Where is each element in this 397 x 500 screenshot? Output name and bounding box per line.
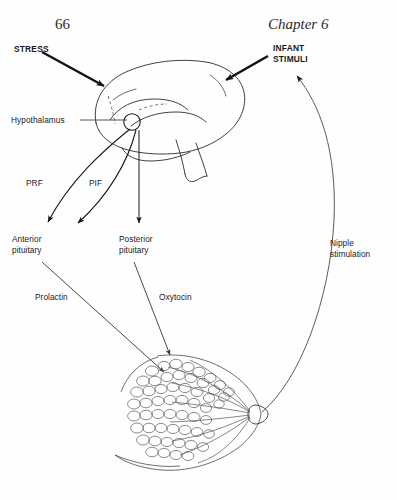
arrow-nipple-stimulation-feedback [262, 76, 334, 412]
arrow-infant-stimuli-to-brain [226, 56, 268, 80]
arrow-prf [48, 129, 130, 222]
brain-outline [95, 60, 244, 181]
label-posterior-pituitary: Posterior pituitary [119, 234, 153, 255]
arrow-stress-to-brain [42, 52, 104, 86]
hypothalamus-circle [124, 114, 140, 130]
label-hypothalamus: Hypothalamus [11, 115, 65, 126]
book-page: 66 Chapter 6 [0, 0, 397, 500]
arrow-prolactin [42, 262, 164, 372]
label-infant-stimuli: INFANT STIMULI [273, 43, 308, 64]
label-pif: PIF [89, 178, 102, 189]
label-oxytocin: Oxytocin [159, 292, 192, 303]
label-prf: PRF [26, 178, 43, 189]
label-anterior-pituitary: Anterior pituitary [12, 234, 42, 255]
label-prolactin: Prolactin [35, 292, 68, 303]
label-nipple-stimulation: Nipple stimulation [330, 238, 370, 259]
arrow-oxytocin [134, 262, 170, 355]
label-stress: STRESS [14, 44, 49, 55]
page-edge-clip [392, 0, 397, 500]
breast-cross-section [115, 355, 268, 470]
arrow-pif [78, 130, 136, 223]
